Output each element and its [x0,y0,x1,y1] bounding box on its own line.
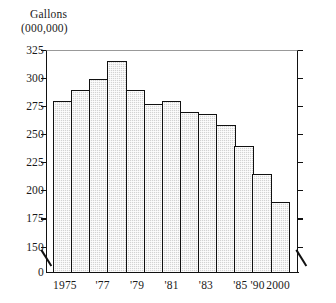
x-axis-tick-label: '81 [163,277,180,295]
bar-chart: Gallons (000,000) 3253002752502252001751… [0,0,336,303]
bar [216,125,235,273]
x-axis-tick-label [215,277,232,295]
bar [252,174,271,273]
y-axis-title-line2: (000,000) [21,21,68,35]
bar [180,112,199,273]
y-axis-tick-label: 275 [10,101,44,112]
bar [89,79,108,273]
x-axis-tick-label [146,277,163,295]
y-axis-title: Gallons (000,000) [21,7,68,35]
bar [162,101,181,273]
y-axis-tick-right [298,106,303,107]
bar [126,90,145,273]
bar [144,104,163,273]
bar [71,90,90,273]
bar [271,202,290,273]
x-axis-tick-label: '85 [232,277,249,295]
x-axis-tick-label [111,277,128,295]
y-axis-tick-label: 200 [10,185,44,196]
y-axis-tick-right [298,247,303,248]
x-axis-tick-label: '77 [94,277,111,295]
y-axis-tick-label: 250 [10,129,44,140]
y-axis-tick-label: 300 [10,73,44,84]
y-axis-tick-right [298,218,303,219]
x-axis-tick-label: '79 [128,277,145,295]
y-axis-title-line1: Gallons [21,7,68,21]
y-axis-tick-label: 325 [10,45,44,56]
bar [198,114,217,273]
x-axis-tick-label: '83 [197,277,214,295]
x-axis-tick-label: '90 [249,277,266,295]
y-axis-tick-right [298,50,303,51]
y-axis-tick-right [298,190,303,191]
x-axis-labels: 1975'77'79'81'83'85'902000 [53,277,290,295]
x-axis-tick-label: 1975 [53,277,77,295]
bar [234,146,253,273]
y-axis-tick-right [298,162,303,163]
x-axis-tick-label [77,277,94,295]
bar-series [53,50,290,273]
bar [107,61,126,273]
y-axis-tick-right [298,134,303,135]
y-axis-tick-right [298,78,303,79]
y-axis-tick-label: 0 [10,267,44,278]
y-axis-tick-label: 175 [10,213,44,224]
y-axis-tick-label: 225 [10,157,44,168]
y-axis-tick-label: 150 [10,242,44,253]
bar [53,101,72,273]
x-axis-tick-label: 2000 [266,277,290,295]
x-axis-tick-label [180,277,197,295]
